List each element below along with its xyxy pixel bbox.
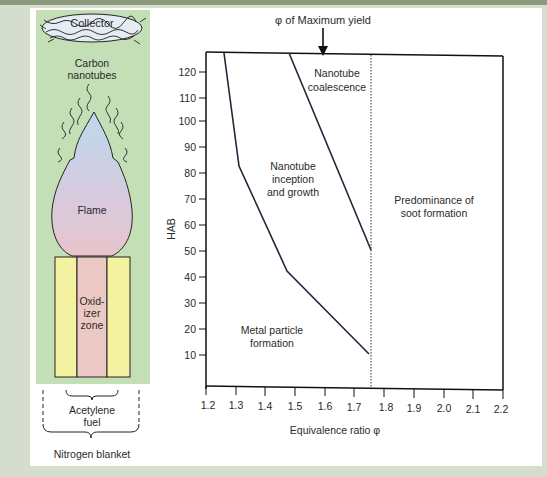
svg-text:Nanotube: Nanotube <box>314 67 360 79</box>
region-coalescence: Nanotube coalescence <box>308 67 367 93</box>
nitrogen-blanket-label: Nitrogen blanket <box>54 448 131 460</box>
svg-text:1.9: 1.9 <box>407 402 422 414</box>
svg-text:20: 20 <box>184 323 196 335</box>
svg-text:1.8: 1.8 <box>379 401 394 413</box>
flame-shape <box>52 112 132 256</box>
x-axis-label: Equivalence ratio φ <box>290 424 380 436</box>
svg-text:Nanotube: Nanotube <box>270 160 316 172</box>
svg-text:30: 30 <box>184 297 196 309</box>
svg-text:2.0: 2.0 <box>437 402 452 414</box>
flame-label: Flame <box>77 204 106 216</box>
carbon-nanotubes-label: Carbon nanotubes <box>67 57 116 81</box>
svg-text:1.5: 1.5 <box>288 400 303 412</box>
svg-text:60: 60 <box>184 219 196 231</box>
max-yield-arrow <box>318 28 328 56</box>
svg-text:1.6: 1.6 <box>318 400 333 412</box>
svg-text:50: 50 <box>184 245 196 257</box>
svg-text:Metal particle: Metal particle <box>241 324 304 336</box>
region-inception: Nanotube inception and growth <box>267 160 319 198</box>
y-axis-label: HAB <box>165 218 177 240</box>
svg-text:100: 100 <box>178 115 196 127</box>
svg-text:formation: formation <box>250 337 294 349</box>
svg-text:110: 110 <box>179 92 196 104</box>
svg-text:and growth: and growth <box>267 186 319 198</box>
svg-text:2.1: 2.1 <box>466 403 481 415</box>
svg-text:2.2: 2.2 <box>494 403 509 415</box>
svg-text:zone: zone <box>81 319 104 331</box>
svg-text:nanotubes: nanotubes <box>67 69 116 81</box>
y-tick-labels: 10 20 30 40 50 60 70 80 90 100 110 120 <box>178 66 196 361</box>
collector: Collector <box>40 14 146 44</box>
svg-text:Carbon: Carbon <box>75 57 110 69</box>
svg-text:40: 40 <box>184 271 196 283</box>
region-soot: Predominance of soot formation <box>394 194 473 219</box>
svg-text:fuel: fuel <box>84 416 101 428</box>
svg-text:soot formation: soot formation <box>401 207 468 219</box>
svg-text:izer: izer <box>84 307 101 319</box>
svg-text:120: 120 <box>178 66 196 78</box>
svg-text:1.7: 1.7 <box>347 401 362 413</box>
svg-text:70: 70 <box>184 193 196 205</box>
acetylene-fuel-label: Acetylene fuel <box>69 404 115 428</box>
svg-text:1.4: 1.4 <box>258 400 273 412</box>
collector-label: Collector <box>70 17 114 29</box>
fuel-brace <box>66 390 118 400</box>
svg-text:90: 90 <box>184 141 196 153</box>
y-axis <box>199 72 206 355</box>
svg-text:Oxid-: Oxid- <box>79 295 105 307</box>
svg-text:1.2: 1.2 <box>201 399 216 411</box>
region-metal: Metal particle formation <box>241 324 304 349</box>
svg-text:80: 80 <box>184 167 196 179</box>
boundary-line-metal-inception <box>224 53 369 354</box>
svg-text:10: 10 <box>184 349 196 361</box>
max-yield-annotation: φ of Maximum yield <box>275 14 371 26</box>
svg-text:inception: inception <box>272 173 314 185</box>
svg-text:1.3: 1.3 <box>229 399 244 411</box>
svg-text:coalescence: coalescence <box>308 81 367 93</box>
x-tick-labels: 1.2 1.3 1.4 1.5 1.6 1.7 1.8 1.9 2.0 2.1 … <box>201 399 509 415</box>
svg-text:Acetylene: Acetylene <box>69 404 115 416</box>
figure-svg: Collector Carbon nanotubes Flame Oxid- i… <box>0 0 547 477</box>
svg-text:Predominance of: Predominance of <box>394 194 473 206</box>
